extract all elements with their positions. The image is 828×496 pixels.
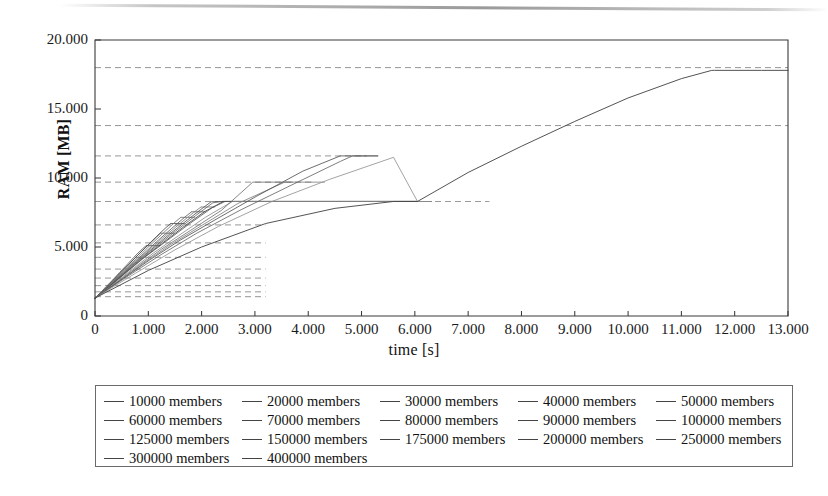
x-tick-label: 7.000 <box>438 321 498 338</box>
legend-item[interactable]: 40000 members <box>518 393 656 409</box>
legend-line-icon <box>380 401 400 402</box>
legend-label: 40000 members <box>543 393 636 409</box>
x-tick-label: 3.000 <box>225 321 285 338</box>
y-tick-label: 20.000 <box>20 31 88 48</box>
legend-item[interactable]: 10000 members <box>104 393 242 409</box>
y-tick-label: 5.000 <box>20 238 88 255</box>
legend-item[interactable]: 175000 members <box>380 431 518 447</box>
legend-row: 60000 members70000 members80000 members9… <box>104 411 788 429</box>
legend-line-icon <box>656 401 676 402</box>
legend-label: 20000 members <box>267 393 360 409</box>
legend-item[interactable]: 70000 members <box>242 412 380 428</box>
legend-item[interactable]: 150000 members <box>242 431 380 447</box>
chart-legend: 10000 members20000 members30000 members4… <box>95 385 793 467</box>
legend-label: 300000 members <box>129 450 229 466</box>
legend-label: 100000 members <box>681 412 781 428</box>
legend-line-icon <box>104 439 124 440</box>
legend-label: 175000 members <box>405 431 505 447</box>
y-tick-label: 10.000 <box>20 169 88 186</box>
legend-item[interactable]: 90000 members <box>518 412 656 428</box>
plot-frame <box>95 40 788 316</box>
x-tick-label: 12.000 <box>705 321 765 338</box>
x-tick-label: 6.000 <box>385 321 445 338</box>
legend-line-icon <box>242 439 262 440</box>
data-series-group <box>95 70 788 298</box>
x-tick-label: 11.000 <box>651 321 711 338</box>
legend-item[interactable]: 125000 members <box>104 431 242 447</box>
legend-row: 300000 members400000 members <box>104 449 788 467</box>
x-tick-label: 9.000 <box>545 321 605 338</box>
x-tick-label: 10.000 <box>598 321 658 338</box>
legend-line-icon <box>104 401 124 402</box>
legend-line-icon <box>242 420 262 421</box>
y-tick-label: 15.000 <box>20 100 88 117</box>
legend-line-icon <box>104 458 124 459</box>
x-tick-label: 2.000 <box>172 321 232 338</box>
legend-item[interactable]: 300000 members <box>104 450 242 466</box>
x-tick-label: 4.000 <box>278 321 338 338</box>
legend-item[interactable]: 200000 members <box>518 431 656 447</box>
x-tick-label: 8.000 <box>491 321 551 338</box>
x-tick-label: 1.000 <box>118 321 178 338</box>
legend-label: 80000 members <box>405 412 498 428</box>
legend-item[interactable]: 20000 members <box>242 393 380 409</box>
legend-line-icon <box>518 439 538 440</box>
legend-label: 10000 members <box>129 393 222 409</box>
legend-label: 50000 members <box>681 393 774 409</box>
legend-label: 150000 members <box>267 431 367 447</box>
legend-label: 200000 members <box>543 431 643 447</box>
legend-label: 30000 members <box>405 393 498 409</box>
legend-line-icon <box>518 420 538 421</box>
legend-item[interactable]: 250000 members <box>656 431 794 447</box>
legend-label: 60000 members <box>129 412 222 428</box>
x-tick-label: 13.000 <box>758 321 818 338</box>
legend-item[interactable]: 30000 members <box>380 393 518 409</box>
dashed-reference-lines <box>95 68 788 297</box>
x-tick-label: 5.000 <box>332 321 392 338</box>
legend-line-icon <box>242 458 262 459</box>
legend-label: 90000 members <box>543 412 636 428</box>
legend-item[interactable]: 400000 members <box>242 450 380 466</box>
legend-item[interactable]: 80000 members <box>380 412 518 428</box>
legend-row: 125000 members150000 members175000 membe… <box>104 430 788 448</box>
legend-line-icon <box>656 439 676 440</box>
legend-label: 125000 members <box>129 431 229 447</box>
legend-line-icon <box>380 439 400 440</box>
axis-tick-marks <box>95 40 788 316</box>
legend-label: 250000 members <box>681 431 781 447</box>
legend-row: 10000 members20000 members30000 members4… <box>104 392 788 410</box>
legend-line-icon <box>242 401 262 402</box>
x-axis-title: time [s] <box>0 341 828 359</box>
legend-line-icon <box>380 420 400 421</box>
legend-item[interactable]: 100000 members <box>656 412 794 428</box>
legend-line-icon <box>518 401 538 402</box>
legend-item[interactable]: 60000 members <box>104 412 242 428</box>
chart-figure: RAM [MB] time [s] 05.00010.00015.00020.0… <box>0 0 828 496</box>
legend-label: 400000 members <box>267 450 367 466</box>
x-tick-label: 0 <box>65 321 125 338</box>
legend-label: 70000 members <box>267 412 360 428</box>
legend-item[interactable]: 50000 members <box>656 393 794 409</box>
legend-line-icon <box>104 420 124 421</box>
legend-line-icon <box>656 420 676 421</box>
